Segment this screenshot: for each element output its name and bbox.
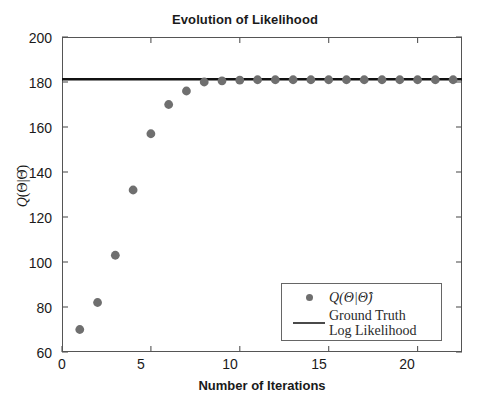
legend-label-ground-truth-line1: Ground Truth xyxy=(329,308,417,323)
legend[interactable]: Q(Θ|Θ̂) Ground Truth Log Likelihood xyxy=(281,283,442,341)
legend-line-icon xyxy=(289,322,329,324)
x-axis-title: Number of Iterations xyxy=(62,378,462,393)
legend-entry-ground-truth: Ground Truth Log Likelihood xyxy=(289,307,417,339)
x-tick-label-15: 15 xyxy=(304,356,334,372)
legend-dot-icon xyxy=(289,294,329,301)
chart-title: Evolution of Likelihood xyxy=(0,12,490,27)
chart-figure: Evolution of Likelihood Q(Θ|Θ̂) Number o… xyxy=(0,0,490,418)
legend-entry-q: Q(Θ|Θ̂) xyxy=(289,288,373,306)
x-tick-label-5: 5 xyxy=(126,356,156,372)
y-tick-label-80: 80 xyxy=(8,300,52,316)
x-tick-label-20: 20 xyxy=(392,356,422,372)
y-axis-label-q: Q xyxy=(15,197,30,207)
x-tick-label-10: 10 xyxy=(215,356,245,372)
y-tick-label-60: 60 xyxy=(8,345,52,361)
y-tick-label-160: 160 xyxy=(8,120,52,136)
y-tick-label-180: 180 xyxy=(8,75,52,91)
legend-label-ground-truth-line2: Log Likelihood xyxy=(329,323,417,338)
y-tick-label-100: 100 xyxy=(8,255,52,271)
y-tick-label-200: 200 xyxy=(8,30,52,46)
legend-label-q: Q(Θ|Θ̂) xyxy=(329,290,373,305)
y-tick-label-120: 120 xyxy=(8,210,52,226)
x-tick-label-0: 0 xyxy=(47,356,77,372)
y-tick-label-140: 140 xyxy=(8,165,52,181)
